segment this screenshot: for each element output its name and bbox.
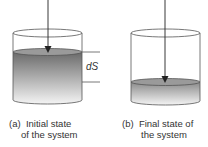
cylinder-rim-final [131, 29, 200, 37]
cylinder-initial [13, 0, 100, 104]
cylinder-rim-initial [13, 29, 82, 37]
cylinder-final [131, 0, 200, 105]
caption-final-line1: (b) Final state of [122, 118, 193, 129]
caption-initial-line2: of the system [21, 129, 78, 140]
ds-label: dS [86, 61, 98, 72]
caption-initial-line1: (a) Initial state [9, 118, 71, 129]
caption-final-line2: the system [141, 129, 187, 140]
liquid-initial [13, 52, 82, 104]
